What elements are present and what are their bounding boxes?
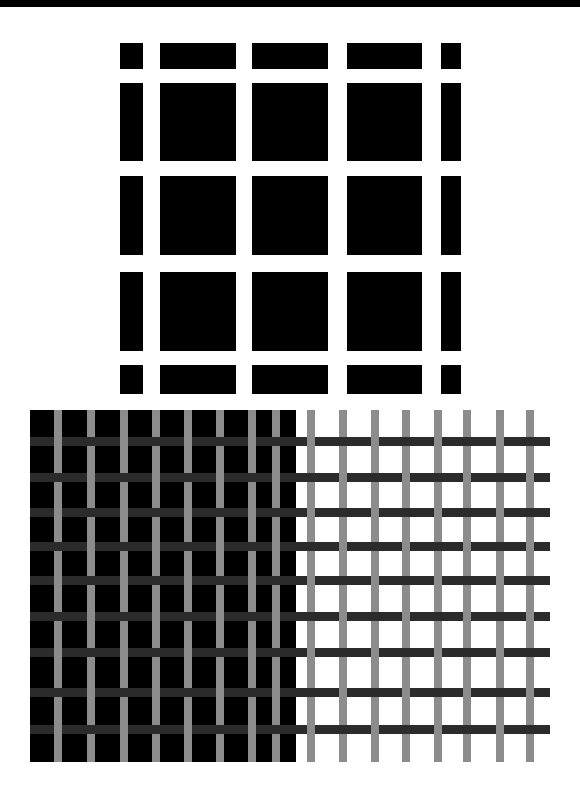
horizontal-bar xyxy=(30,612,550,621)
weave-crossing xyxy=(216,542,224,551)
vertical-bar xyxy=(339,410,347,762)
weave-crossing xyxy=(402,688,410,697)
weave-crossing xyxy=(120,576,128,585)
weave-crossing xyxy=(54,648,62,657)
weave-crossing xyxy=(272,542,280,551)
weave-crossing xyxy=(184,437,192,446)
weave-crossing xyxy=(272,612,280,621)
vertical-bar xyxy=(216,410,224,762)
weave-crossing xyxy=(87,688,95,697)
weave-crossing xyxy=(463,612,471,621)
weave-crossing xyxy=(272,473,280,482)
weave-crossing xyxy=(526,688,534,697)
grid-block xyxy=(120,272,143,351)
vertical-bar xyxy=(307,410,315,762)
weave-crossing xyxy=(184,725,192,734)
weave-crossing xyxy=(307,508,315,517)
weave-crossing xyxy=(184,576,192,585)
grid-block xyxy=(441,365,461,394)
grid-block xyxy=(252,43,328,69)
grid-block xyxy=(441,176,461,255)
weave-crossing xyxy=(463,688,471,697)
horizontal-bar xyxy=(30,688,550,697)
horizontal-bar xyxy=(30,542,550,551)
weave-crossing xyxy=(307,437,315,446)
weave-crossing xyxy=(307,648,315,657)
vertical-bar xyxy=(526,410,534,762)
grid-block xyxy=(120,43,143,69)
weave-crossing xyxy=(434,725,442,734)
vertical-bar xyxy=(496,410,504,762)
weave-crossing xyxy=(248,576,256,585)
weave-crossing xyxy=(371,648,379,657)
horizontal-bar xyxy=(30,437,550,446)
weave-crossing xyxy=(248,648,256,657)
grid-block xyxy=(252,365,328,394)
grid-block xyxy=(160,365,236,394)
grid-block xyxy=(347,365,422,394)
weave-crossing xyxy=(184,508,192,517)
horizontal-bar xyxy=(30,648,550,657)
horizontal-bar xyxy=(30,508,550,517)
grid-block xyxy=(160,83,236,161)
vertical-bar xyxy=(184,410,192,762)
grid-block xyxy=(252,83,328,161)
weave-crossing xyxy=(152,542,160,551)
weave-crossing xyxy=(120,648,128,657)
vertical-bar xyxy=(371,410,379,762)
weave-crossing xyxy=(339,688,347,697)
vertical-bar xyxy=(272,410,280,762)
weave-crossing xyxy=(339,612,347,621)
vertical-bar xyxy=(120,410,128,762)
weave-crossing xyxy=(248,725,256,734)
vertical-bar xyxy=(402,410,410,762)
grid-block xyxy=(347,83,422,161)
grid-block xyxy=(160,176,236,255)
weave-crossing xyxy=(87,542,95,551)
weave-crossing xyxy=(54,437,62,446)
vertical-bar xyxy=(87,410,95,762)
weave-crossing xyxy=(526,612,534,621)
vertical-bar xyxy=(248,410,256,762)
grid-block xyxy=(160,43,236,69)
weave-crossing xyxy=(152,612,160,621)
weave-crossing xyxy=(120,725,128,734)
weave-crossing xyxy=(184,648,192,657)
weave-crossing xyxy=(402,612,410,621)
weave-crossing xyxy=(434,437,442,446)
horizontal-bar xyxy=(30,576,550,585)
weave-crossing xyxy=(526,473,534,482)
weave-crossing xyxy=(402,542,410,551)
weave-crossing xyxy=(496,648,504,657)
weave-crossing xyxy=(434,576,442,585)
weave-crossing xyxy=(120,508,128,517)
weave-crossing xyxy=(526,542,534,551)
weave-crossing xyxy=(402,473,410,482)
weave-crossing xyxy=(463,542,471,551)
weave-crossing xyxy=(152,688,160,697)
weave-crossing xyxy=(87,473,95,482)
weave-crossing xyxy=(248,508,256,517)
weave-crossing xyxy=(216,688,224,697)
weave-crossing xyxy=(87,612,95,621)
weave-crossing xyxy=(339,542,347,551)
weave-crossing xyxy=(152,473,160,482)
top-black-bar xyxy=(0,0,580,7)
grid-block xyxy=(120,176,143,255)
grid-block xyxy=(441,43,461,69)
vertical-bar xyxy=(434,410,442,762)
weave-crossing xyxy=(496,508,504,517)
weave-crossing xyxy=(463,473,471,482)
weave-crossing xyxy=(434,508,442,517)
weave-crossing xyxy=(216,612,224,621)
grid-block xyxy=(160,272,236,351)
horizontal-bar xyxy=(30,473,550,482)
weave-crossing xyxy=(272,688,280,697)
horizontal-bar xyxy=(30,725,550,734)
weave-crossing xyxy=(371,576,379,585)
weave-crossing xyxy=(54,508,62,517)
weave-crossing xyxy=(307,576,315,585)
vertical-bar xyxy=(463,410,471,762)
weave-crossing xyxy=(339,473,347,482)
weave-crossing xyxy=(496,576,504,585)
